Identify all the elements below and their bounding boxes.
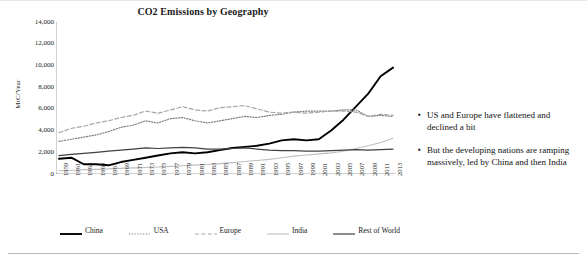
- bullet-text: But the developing nations are ramping m…: [427, 145, 578, 168]
- series-line-usa: [59, 110, 393, 141]
- x-tick-label: 2011: [383, 163, 390, 176]
- x-tick-label: 2007: [358, 163, 365, 176]
- x-tick-label: 1987: [235, 163, 242, 176]
- x-tick-label: 1991: [259, 163, 266, 176]
- x-tick-label: 2013: [396, 163, 403, 176]
- x-tick-label: 2005: [346, 163, 353, 176]
- chart-legend: ChinaUSAEuropeIndiaRest of World: [60, 223, 400, 237]
- bullet-marker-icon: ▪: [418, 110, 427, 120]
- x-tick-label: 1985: [222, 163, 229, 176]
- x-tick-label: 2009: [371, 163, 378, 176]
- x-tick-label: 1961: [74, 163, 81, 176]
- y-tick-label: 10,000: [14, 62, 54, 69]
- footer-divider: [8, 253, 579, 254]
- x-tick-label: 1983: [210, 163, 217, 176]
- y-tick-label: 0: [14, 171, 54, 178]
- bullet-marker-icon: ▪: [418, 145, 427, 155]
- slide-top-edge: [0, 0, 587, 1]
- x-tick-label: 1979: [185, 163, 192, 176]
- x-tick-label: 1993: [272, 163, 279, 176]
- series-layer: [59, 68, 393, 171]
- x-tick-label: 1977: [173, 163, 180, 176]
- x-tick-label: 1989: [247, 163, 254, 176]
- bullet-item: ▪But the developing nations are ramping …: [418, 145, 578, 168]
- y-tick-label: 14,000: [14, 19, 54, 26]
- bullet-text: US and Europe have flattened and decline…: [427, 110, 578, 133]
- x-tick-label: 1981: [198, 163, 205, 176]
- x-tick-label: 1995: [284, 163, 291, 176]
- y-tick-label: 2,000: [14, 149, 54, 156]
- y-axis-ticks: 02,0004,0006,0008,00010,00012,00014,000: [8, 22, 54, 236]
- slide-canvas: CO2 Emissions by Geography MtC/Year 02,0…: [0, 0, 587, 268]
- chart-plot-svg: [56, 22, 396, 174]
- legend-item-rest-of-world: Rest of World: [333, 226, 400, 235]
- x-tick-label: 1999: [309, 163, 316, 176]
- y-tick-label: 4,000: [14, 127, 54, 134]
- x-tick-label: 1959: [62, 163, 69, 176]
- legend-label: USA: [154, 226, 169, 235]
- x-tick-label: 1975: [160, 163, 167, 176]
- x-tick-label: 1965: [99, 163, 106, 176]
- x-tick-label: 1963: [86, 163, 93, 176]
- y-tick-label: 6,000: [14, 105, 54, 112]
- legend-label: Europe: [220, 226, 242, 235]
- y-tick-label: 12,000: [14, 40, 54, 47]
- x-tick-label: 1967: [111, 163, 118, 176]
- y-tick-label: 8,000: [14, 84, 54, 91]
- x-tick-label: 1973: [148, 163, 155, 176]
- plot-area: MtC/Year 02,0004,0006,0008,00010,00012,0…: [8, 22, 398, 236]
- legend-item-usa: USA: [129, 226, 169, 235]
- x-tick-label: 1997: [297, 163, 304, 176]
- x-tick-label: 2003: [334, 163, 341, 176]
- bullet-item: ▪US and Europe have flattened and declin…: [418, 110, 578, 133]
- legend-item-china: China: [60, 226, 103, 235]
- x-tick-label: 2001: [321, 163, 328, 176]
- legend-item-india: India: [267, 226, 307, 235]
- legend-label: China: [85, 226, 103, 235]
- legend-label: Rest of World: [358, 226, 400, 235]
- chart-title: CO2 Emissions by Geography: [8, 6, 398, 17]
- bullet-list: ▪US and Europe have flattened and declin…: [418, 110, 578, 180]
- legend-item-europe: Europe: [195, 226, 242, 235]
- legend-label: India: [292, 226, 307, 235]
- x-tick-label: 1969: [123, 163, 130, 176]
- chart-container: CO2 Emissions by Geography MtC/Year 02,0…: [8, 4, 398, 236]
- x-tick-label: 1971: [136, 163, 143, 176]
